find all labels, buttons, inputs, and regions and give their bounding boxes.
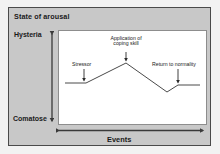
diagram-vector-overlay [0, 0, 220, 154]
arousal-response-curve [65, 63, 200, 92]
figure-container: State of arousal Hysteria Comatose Event… [0, 0, 220, 154]
